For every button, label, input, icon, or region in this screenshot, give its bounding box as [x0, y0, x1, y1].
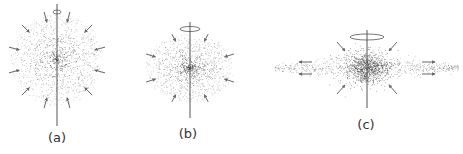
arrow-icon: [44, 12, 47, 22]
collapse-diagram: [0, 0, 463, 154]
arrow-icon: [146, 79, 155, 82]
panel-a: [9, 4, 105, 126]
arrow-icon: [225, 79, 234, 82]
arrow-icon: [389, 42, 397, 51]
arrow-icon: [389, 85, 397, 94]
panel-b: [146, 22, 234, 118]
arrow-icon: [337, 42, 345, 51]
panel-label-a: (a): [48, 130, 66, 145]
arrow-icon: [67, 12, 70, 22]
panel-label-b: (b): [179, 126, 197, 141]
arrow-icon: [95, 70, 105, 73]
arrow-icon: [204, 34, 208, 41]
panel-label-c: (c): [357, 117, 374, 132]
arrow-icon: [22, 88, 29, 95]
arrow-icon: [204, 95, 208, 102]
arrow-icon: [172, 34, 176, 41]
arrow-icon: [9, 70, 19, 73]
arrow-icon: [337, 85, 345, 94]
panel-c: [275, 30, 459, 108]
